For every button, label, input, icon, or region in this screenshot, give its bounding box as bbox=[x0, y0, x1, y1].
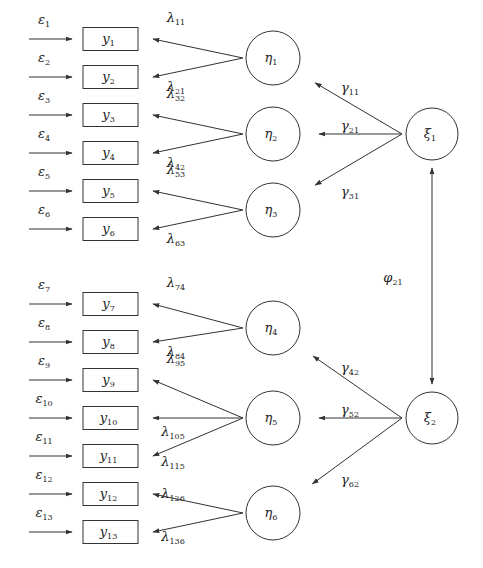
latent-label-eta2-subscript: 2 bbox=[272, 134, 277, 143]
error-label-y5: ε5 bbox=[38, 164, 50, 181]
error-label-y1-symbol: ε bbox=[38, 12, 45, 27]
latent-label-eta6: η6 bbox=[265, 505, 278, 522]
observed-label-y8-subscript: 8 bbox=[110, 342, 115, 351]
error-label-y11: ε11 bbox=[35, 429, 52, 446]
error-label-y3-symbol: ε bbox=[38, 88, 45, 103]
error-label-y11-symbol: ε bbox=[35, 429, 42, 444]
observed-variable-y11: y11 bbox=[83, 445, 138, 468]
latent-endogenous-eta1: η1 bbox=[246, 31, 300, 85]
observed-label-y9: y9 bbox=[101, 372, 114, 389]
observed-label-y10-subscript: 10 bbox=[107, 418, 117, 427]
observed-variable-y8: y8 bbox=[83, 331, 138, 354]
path-label-xi1-eta3: γ31 bbox=[341, 184, 359, 201]
observed-label-y1: y1 bbox=[101, 31, 114, 48]
observed-variable-y10: y10 bbox=[83, 407, 138, 430]
observed-label-y6-subscript: 6 bbox=[110, 229, 115, 238]
observed-variable-y5: y5 bbox=[83, 180, 138, 203]
sem-path-diagram: y1y2y3y4y5y6y7y8y9y10y11y12y13η1η2η3η4η5… bbox=[0, 0, 483, 568]
error-label-y9-symbol: ε bbox=[38, 353, 45, 368]
error-label-y13-symbol: ε bbox=[35, 505, 42, 520]
observed-label-y11-subscript: 11 bbox=[107, 456, 117, 465]
loading-label-y12-subscript: 126 bbox=[169, 494, 184, 503]
loading-arrow-y7 bbox=[153, 304, 243, 328]
observed-variable-y2: y2 bbox=[83, 66, 138, 89]
error-label-y8-subscript: 8 bbox=[45, 323, 50, 332]
error-label-y5-symbol: ε bbox=[38, 164, 45, 179]
loading-label-y13-symbol: λ bbox=[160, 529, 169, 544]
loading-label-y11-symbol: λ bbox=[160, 454, 169, 469]
loading-arrow-y9 bbox=[153, 380, 243, 418]
observed-label-y11: y11 bbox=[99, 448, 118, 465]
error-label-y6-subscript: 6 bbox=[45, 210, 50, 219]
path-label-xi2-eta5: γ52 bbox=[341, 402, 359, 419]
path-label-xi2-eta6-subscript: 62 bbox=[349, 480, 359, 489]
covariance-label-subscript: 21 bbox=[392, 278, 402, 287]
loading-label-y1: λ11 bbox=[166, 10, 185, 27]
loading-label-y9-subscript: 95 bbox=[175, 359, 185, 368]
observed-label-y3: y3 bbox=[101, 107, 114, 124]
loading-arrow-y8 bbox=[153, 328, 243, 342]
loading-label-y10: λ105 bbox=[160, 424, 185, 441]
loading-label-y6-subscript: 63 bbox=[175, 239, 185, 248]
latent-label-xi2: ξ2 bbox=[424, 410, 436, 427]
loading-label-y11: λ115 bbox=[160, 454, 185, 471]
path-label-xi1-eta1: γ11 bbox=[341, 80, 359, 97]
error-label-y4-subscript: 4 bbox=[45, 134, 50, 143]
loading-label-y3-subscript: 32 bbox=[175, 94, 185, 103]
latent-label-eta4-subscript: 4 bbox=[272, 328, 277, 337]
path-label-xi1-eta2-subscript: 21 bbox=[349, 126, 359, 135]
loading-label-y5-subscript: 53 bbox=[175, 170, 185, 179]
error-label-y12: ε12 bbox=[35, 467, 52, 484]
error-label-y11-subscript: 11 bbox=[42, 437, 52, 446]
loading-label-y7: λ74 bbox=[166, 275, 185, 292]
error-label-y2-symbol: ε bbox=[38, 50, 45, 65]
path-label-xi2-eta5-subscript: 52 bbox=[349, 410, 359, 419]
latent-label-eta3: η3 bbox=[265, 202, 278, 219]
latent-label-eta2-symbol: η bbox=[265, 126, 273, 141]
loading-label-y7-symbol: λ bbox=[166, 275, 175, 290]
observed-label-y13: y13 bbox=[99, 524, 118, 541]
latent-label-eta1-subscript: 1 bbox=[272, 58, 277, 67]
path-label-xi1-eta1-subscript: 11 bbox=[349, 88, 359, 97]
error-label-y8-symbol: ε bbox=[38, 315, 45, 330]
error-label-y13-subscript: 13 bbox=[42, 513, 52, 522]
latent-label-eta3-subscript: 3 bbox=[272, 210, 277, 219]
observed-label-y13-subscript: 13 bbox=[107, 532, 117, 541]
loading-arrow-y6 bbox=[153, 210, 243, 229]
observed-label-y2-subscript: 2 bbox=[110, 77, 115, 86]
observed-label-y10: y10 bbox=[99, 410, 118, 427]
error-label-y10-symbol: ε bbox=[35, 391, 42, 406]
error-label-y9-subscript: 9 bbox=[45, 361, 50, 370]
observed-label-y7: y7 bbox=[101, 296, 114, 313]
edges-layer bbox=[29, 39, 432, 532]
latent-label-eta6-symbol: η bbox=[265, 505, 273, 520]
latent-endogenous-eta4: η4 bbox=[246, 301, 300, 355]
error-label-y2-subscript: 2 bbox=[45, 58, 50, 67]
labels-layer: ε1ε2ε3ε4ε5ε6ε7ε8ε9ε10ε11ε12ε13λ11λ21λ32λ… bbox=[35, 10, 402, 546]
loading-label-y1-subscript: 11 bbox=[175, 18, 185, 27]
loading-arrow-y3 bbox=[153, 115, 243, 134]
error-label-y4: ε4 bbox=[38, 126, 50, 143]
loading-label-y1-symbol: λ bbox=[166, 10, 175, 25]
observed-label-y4-subscript: 4 bbox=[110, 153, 115, 162]
error-label-y3: ε3 bbox=[38, 88, 50, 105]
latent-label-eta4-symbol: η bbox=[265, 320, 273, 335]
observed-label-y8: y8 bbox=[101, 334, 114, 351]
loading-arrow-y2 bbox=[153, 58, 243, 77]
loading-label-y7-subscript: 74 bbox=[175, 283, 185, 292]
loading-label-y12-symbol: λ bbox=[160, 486, 169, 501]
loading-label-y12: λ126 bbox=[160, 486, 185, 503]
latent-label-eta6-subscript: 6 bbox=[272, 513, 277, 522]
path-arrow-xi1-eta3 bbox=[315, 134, 402, 185]
observed-label-y1-subscript: 1 bbox=[110, 39, 115, 48]
observed-variable-y9: y9 bbox=[83, 369, 138, 392]
path-label-xi1-eta2: γ21 bbox=[341, 118, 359, 135]
error-label-y10: ε10 bbox=[35, 391, 52, 408]
loading-arrow-y4 bbox=[153, 134, 243, 153]
observed-variable-y7: y7 bbox=[83, 293, 138, 316]
loading-label-y10-subscript: 105 bbox=[169, 432, 184, 441]
latent-endogenous-eta5: η5 bbox=[246, 391, 300, 445]
observed-variable-y4: y4 bbox=[83, 142, 138, 165]
error-label-y1-subscript: 1 bbox=[45, 20, 50, 29]
loading-label-y6-symbol: λ bbox=[166, 231, 175, 246]
